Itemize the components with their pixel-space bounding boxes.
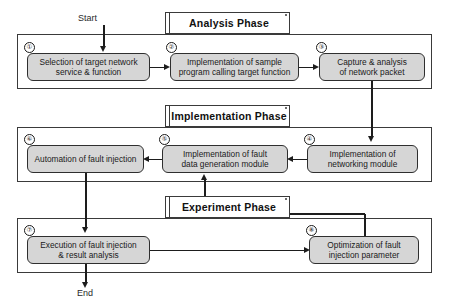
step-7-line2: & result analysis xyxy=(40,250,136,261)
phase-title-analysis: Analysis Phase xyxy=(168,12,290,34)
step-badge-8: ⑧ xyxy=(306,225,317,236)
step-4-line2: networking module xyxy=(328,159,398,170)
connector-step3-to-step4 xyxy=(371,81,373,138)
step-2-line1: Implementation of sample xyxy=(179,57,291,68)
step-5-line1: Implementation of fault xyxy=(181,149,268,160)
step-box-2: Implementation of sample program calling… xyxy=(170,53,299,81)
phase-title-experiment-label: Experiment Phase xyxy=(182,201,276,213)
flowchart-diagram: Analysis Phase Start ① Selection of targ… xyxy=(0,0,449,301)
connector-step7-to-end xyxy=(85,264,87,284)
connector-start-to-step1 xyxy=(103,25,105,48)
step-badge-1: ① xyxy=(24,42,35,53)
phase-title-implementation-label: Implementation Phase xyxy=(171,110,286,122)
arrowhead-feedback-to-step5 xyxy=(201,174,207,180)
step-1-line1: Selection of target network xyxy=(39,57,137,68)
step-8-line2: injection parameter xyxy=(327,250,400,261)
step-3-line2: of network packet xyxy=(337,67,407,78)
step-5-line2: data generation module xyxy=(181,159,268,170)
step-badge-7: ⑦ xyxy=(24,225,35,236)
step-3-line1: Capture & analysis xyxy=(337,57,407,68)
step-badge-4: ④ xyxy=(304,134,315,145)
arrowhead-step3-to-step4 xyxy=(368,136,374,142)
arrowhead-step6-to-step7 xyxy=(82,227,88,233)
step-2-line2: program calling target function xyxy=(179,67,291,78)
step-badge-5: ⑤ xyxy=(159,134,170,145)
arrowhead-start-to-step1 xyxy=(100,46,106,52)
step-box-1: Selection of target network service & fu… xyxy=(27,53,150,81)
step-badge-3: ③ xyxy=(316,42,327,53)
step-box-8: Optimization of fault injection paramete… xyxy=(309,236,419,264)
step-box-6: Automation of fault injection xyxy=(27,145,144,173)
phase-title-experiment: Experiment Phase xyxy=(168,196,290,218)
step-box-5: Implementation of fault data generation … xyxy=(162,145,288,173)
connector-feedback-step8-up xyxy=(364,214,366,237)
step-8-line1: Optimization of fault xyxy=(327,240,400,251)
step-box-4: Implementation of networking module xyxy=(307,145,418,173)
step-6-line1: Automation of fault injection xyxy=(35,154,137,165)
step-4-line1: Implementation of xyxy=(328,149,398,160)
phase-title-implementation: Implementation Phase xyxy=(168,105,290,127)
step-7-line1: Execution of fault injection xyxy=(40,240,136,251)
connector-step6-to-step7 xyxy=(85,173,87,229)
start-label: Start xyxy=(78,13,97,23)
step-box-7: Execution of fault injection & result an… xyxy=(27,236,150,264)
phase-title-analysis-label: Analysis Phase xyxy=(189,17,269,29)
step-box-3: Capture & analysis of network packet xyxy=(319,53,425,81)
step-badge-2: ② xyxy=(166,42,177,53)
end-label: End xyxy=(77,288,93,298)
step-1-line2: service & function xyxy=(39,67,137,78)
step-badge-6: ⑥ xyxy=(24,134,35,145)
connector-step7-to-step8 xyxy=(150,250,307,252)
